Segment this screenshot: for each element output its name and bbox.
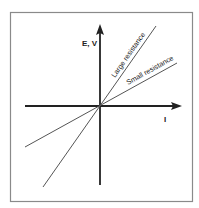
- frame-border: [11, 13, 193, 202]
- iv-diagram: E, V I Large resistance Small resistance: [0, 0, 199, 208]
- small-resistance-label: Small resistance: [125, 53, 175, 86]
- x-axis-label: I: [164, 115, 166, 124]
- y-axis-label: E, V: [82, 39, 98, 48]
- small-resistance-line: [25, 63, 177, 147]
